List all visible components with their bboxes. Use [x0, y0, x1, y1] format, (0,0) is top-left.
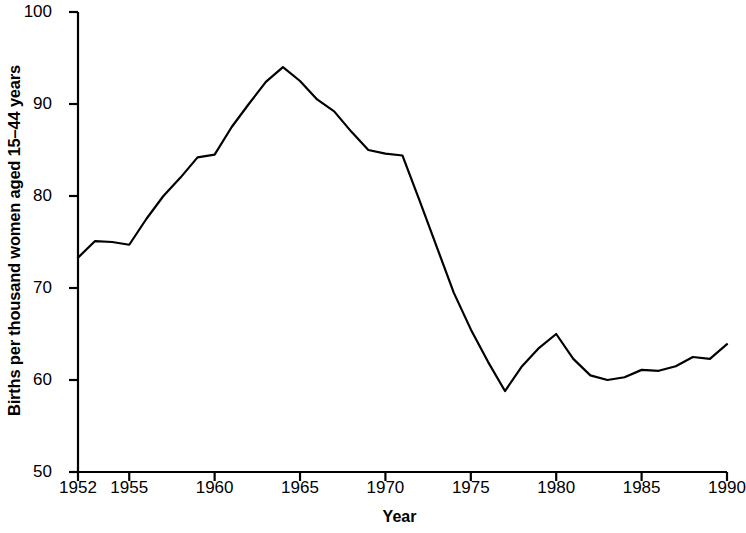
- x-tick-label: 1965: [281, 479, 319, 496]
- x-tick-label: 1985: [623, 479, 661, 496]
- x-axis-title: Year: [0, 508, 739, 526]
- x-tick-label: 1970: [366, 479, 404, 496]
- axis-lines: [78, 12, 727, 472]
- x-tick-label: 1955: [110, 479, 148, 496]
- x-tick-label: 1975: [452, 479, 490, 496]
- x-axis-title-text: Year: [323, 508, 417, 525]
- x-tick-label: 1980: [537, 479, 575, 496]
- x-tick-label: 1952: [59, 479, 97, 496]
- x-tick-label: 1990: [708, 479, 746, 496]
- data-line-series-1: [78, 67, 727, 391]
- x-tick-label: 1960: [196, 479, 234, 496]
- y-axis-ticks: [69, 12, 78, 472]
- x-axis-tick-labels: 195219551960196519701975198019851990: [0, 479, 739, 509]
